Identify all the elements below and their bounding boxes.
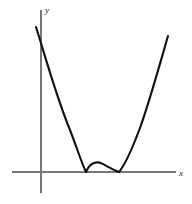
function-plot: y x <box>0 0 192 204</box>
curve-local-hump <box>86 162 119 172</box>
curve-right-branch <box>119 36 168 172</box>
curve-left-branch <box>36 27 86 172</box>
y-axis-label: y <box>44 5 49 15</box>
graph-figure: y x <box>0 0 192 204</box>
x-axis-label: x <box>178 168 183 178</box>
